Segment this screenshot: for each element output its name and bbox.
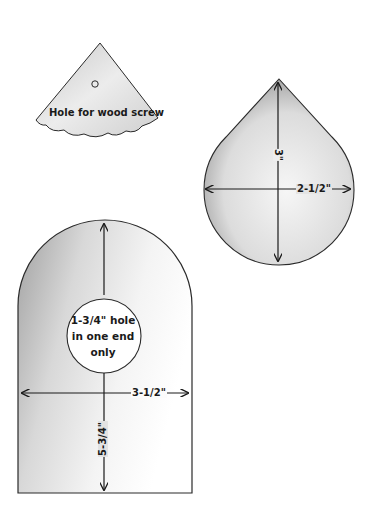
hole-note-line: 1-3/4" hole (61, 312, 145, 328)
entry-hole-note: 1-3/4" hole in one end only (61, 312, 145, 360)
panel-width-label: 3-1/2" (131, 388, 167, 398)
teardrop-piece (204, 79, 354, 265)
teardrop-height-label: 3" (273, 149, 283, 161)
panel-height-label: 5-3/4" (98, 421, 108, 457)
hole-note-line: only (61, 344, 145, 360)
teardrop-width-label: 2-1/2" (296, 184, 332, 194)
hole-note-line: in one end (61, 328, 145, 344)
diagram-canvas (0, 0, 372, 523)
roof-cap-piece (36, 43, 158, 137)
screw-hole-label: Hole for wood screw (49, 108, 164, 118)
